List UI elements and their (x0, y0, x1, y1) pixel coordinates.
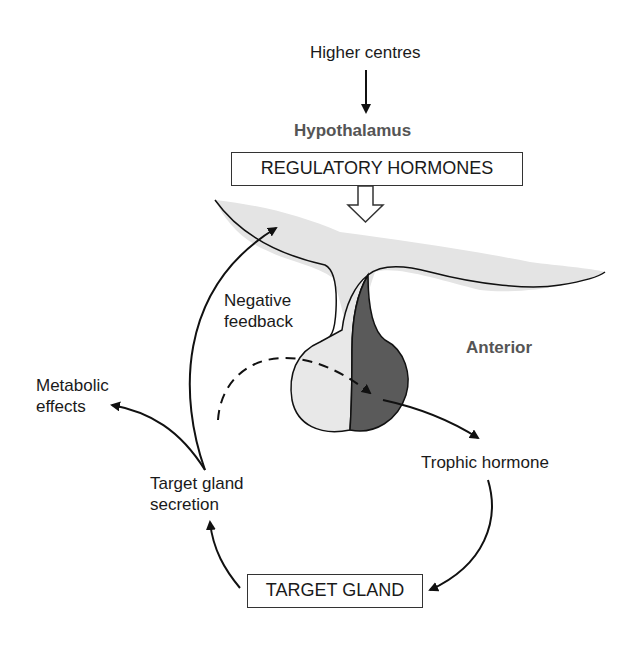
trophic-to-target-arrow (430, 480, 492, 590)
target-gland-box: TARGET GLAND (247, 574, 423, 608)
higher-centres-label: Higher centres (310, 42, 421, 63)
metabolic-effects-label-2: effects (36, 396, 86, 417)
hollow-arrow-icon (348, 186, 383, 222)
target-gland-secretion-label-1: Target gland (150, 473, 244, 494)
hypothalamus-label: Hypothalamus (294, 120, 411, 141)
trophic-hormone-label: Trophic hormone (421, 452, 549, 473)
negative-feedback-label-2: feedback (224, 311, 293, 332)
target-to-secretion-arrow (210, 522, 240, 588)
anterior-pituitary (350, 275, 408, 431)
target-gland-secretion-label-2: secretion (150, 494, 219, 515)
anterior-label: Anterior (466, 337, 532, 358)
diagram-canvas (0, 0, 617, 645)
secretion-to-hypothalamus-arrow (190, 228, 276, 470)
regulatory-hormones-box: REGULATORY HORMONES (231, 152, 523, 186)
negative-feedback-label-1: Negative (224, 290, 291, 311)
metabolic-effects-label-1: Metabolic (36, 375, 109, 396)
